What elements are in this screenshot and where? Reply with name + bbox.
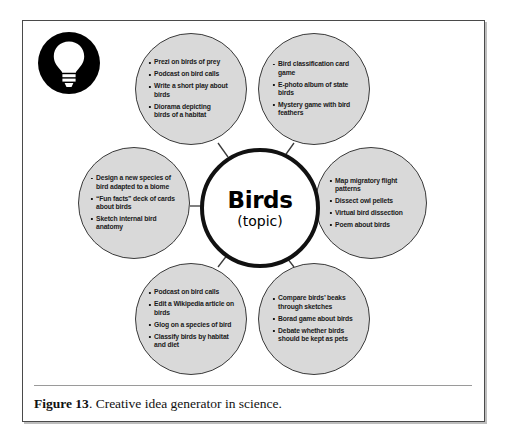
list-item: Dissect owl pellets bbox=[329, 197, 415, 205]
idea-generator-diagram: Prezi on birds of prey Podcast on bird c… bbox=[22, 20, 485, 375]
list-item: Podcast on bird calls bbox=[148, 70, 228, 78]
list-item: Edit a Wikipedia article on birds bbox=[148, 300, 234, 317]
caption-divider bbox=[34, 385, 472, 386]
list-item: Virtual bird dissection bbox=[329, 209, 415, 217]
list-item: Mystery game with bird feathers bbox=[272, 101, 354, 118]
list-item: Poem about birds bbox=[329, 221, 415, 229]
list-item: Design a new species of bird adapted to … bbox=[90, 174, 177, 191]
idea-node-bottom-right[interactable]: Compare birds’ beaks through sketches Bo… bbox=[258, 263, 370, 375]
list-item: Map migratory flight patterns bbox=[329, 177, 415, 194]
idea-list: Bird classification card game E-photo al… bbox=[259, 60, 369, 118]
list-item: Podcast on bird calls bbox=[148, 288, 234, 296]
idea-node-right[interactable]: Map migratory flight patterns Dissect ow… bbox=[315, 147, 427, 259]
figure-caption-label: Figure 13 bbox=[34, 396, 89, 411]
idea-node-left[interactable]: Design a new species of bird adapted to … bbox=[78, 147, 190, 259]
list-item: Sketch internal bird anatomy bbox=[90, 215, 177, 232]
list-item: E-photo album of state birds bbox=[272, 81, 354, 98]
center-topic-title: Birds bbox=[228, 188, 293, 212]
idea-node-bottom-left[interactable]: Podcast on bird calls Edit a Wikipedia a… bbox=[135, 263, 247, 375]
list-item: Compare birds’ beaks through sketches bbox=[272, 294, 358, 311]
center-topic-subtitle: (topic) bbox=[237, 213, 282, 229]
idea-list: Podcast on bird calls Edit a Wikipedia a… bbox=[136, 288, 246, 349]
list-item: Prezi on birds of prey bbox=[148, 58, 228, 66]
center-topic-node[interactable]: Birds (topic) bbox=[200, 148, 320, 268]
figure-page: Prezi on birds of prey Podcast on bird c… bbox=[0, 0, 510, 441]
list-item: Classify birds by habitat and diet bbox=[148, 333, 234, 350]
list-item: Diorama depicting birds of a habitat bbox=[148, 103, 228, 120]
list-item: Glog on a species of bird bbox=[148, 321, 234, 329]
idea-list: Compare birds’ beaks through sketches Bo… bbox=[259, 294, 369, 343]
list-item: “Fun facts” deck of cards about birds bbox=[90, 195, 177, 212]
idea-node-top-left[interactable]: Prezi on birds of prey Podcast on bird c… bbox=[135, 33, 247, 145]
idea-node-top-right[interactable]: Bird classification card game E-photo al… bbox=[258, 33, 370, 145]
list-item: Bird classification card game bbox=[272, 60, 354, 77]
idea-list: Prezi on birds of prey Podcast on bird c… bbox=[136, 58, 246, 119]
list-item: Borad game about birds bbox=[272, 315, 358, 323]
figure-caption-text: . Creative idea generator in science. bbox=[89, 396, 282, 411]
idea-list: Design a new species of bird adapted to … bbox=[79, 174, 189, 232]
list-item: Debate whether birds should be kept as p… bbox=[272, 327, 358, 344]
figure-caption: Figure 13. Creative idea generator in sc… bbox=[34, 395, 474, 412]
idea-list: Map migratory flight patterns Dissect ow… bbox=[316, 177, 426, 230]
list-item: Write a short play about birds bbox=[148, 82, 228, 99]
